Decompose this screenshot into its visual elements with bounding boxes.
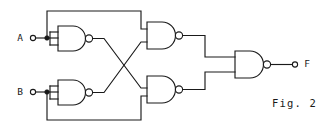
wire-gate4-to-gate5 <box>183 72 235 90</box>
nand-gate-1-inversion-bubble <box>85 35 92 42</box>
input-b-label: B <box>17 86 23 97</box>
logic-circuit-figure: A B <box>0 0 320 131</box>
wire-gate1-cross-to-gate4 <box>93 39 147 89</box>
output-f-label: F <box>304 58 310 69</box>
nand-gate-4[interactable] <box>147 76 183 103</box>
nand-gate-4-body <box>147 76 176 103</box>
input-a-terminal[interactable] <box>30 35 35 40</box>
wire-gate3-to-gate5 <box>183 36 235 58</box>
nand-gate-2-inversion-bubble <box>85 89 92 96</box>
nand-gate-4-inversion-bubble <box>175 86 182 93</box>
nand-gate-2-body <box>58 80 85 105</box>
input-a-label: A <box>17 32 23 43</box>
nand-gate-3[interactable] <box>147 22 183 49</box>
wire-b-feedback-bottom <box>47 92 147 120</box>
nand-gate-2[interactable] <box>58 80 93 105</box>
nand-gate-5-inversion-bubble <box>263 61 270 68</box>
nand-gate-3-body <box>147 22 176 49</box>
input-b-terminal[interactable] <box>30 89 35 94</box>
nand-gate-5-body <box>235 51 263 78</box>
wire-a-feedback-top <box>47 11 147 38</box>
circuit-schematic: A B <box>0 0 320 131</box>
figure-caption: Fig. 2 <box>272 97 317 109</box>
nand-gate-5[interactable] <box>235 51 271 78</box>
nand-gate-3-inversion-bubble <box>175 32 182 39</box>
nand-gate-1-body <box>58 26 85 51</box>
output-f-terminal[interactable] <box>292 62 297 67</box>
nand-gate-1[interactable] <box>58 26 93 51</box>
